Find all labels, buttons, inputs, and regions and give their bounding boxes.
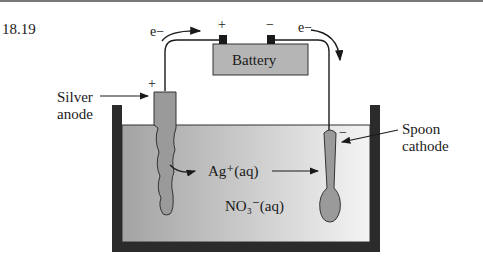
anode-sign: + (148, 76, 156, 92)
nitrate-ion-label: NO₃⁻(aq) (225, 198, 284, 214)
container-right-wall (370, 105, 380, 252)
battery-negative-sign: − (266, 17, 274, 33)
battery-label: Battery (232, 52, 276, 68)
cathode-label-line1: Spoon (402, 121, 440, 137)
figure-number: 18.19 (2, 21, 36, 37)
electron-label-left: e− (150, 24, 164, 40)
cathode-sign: − (339, 125, 347, 141)
anode-label-line2: anode (57, 106, 93, 122)
battery-negative-terminal (267, 35, 275, 44)
anode-label-line1: Silver (57, 89, 93, 105)
electron-label-right: e− (298, 20, 312, 36)
battery-positive-terminal (219, 35, 227, 44)
battery-positive-sign: + (218, 17, 226, 33)
cathode-label-line2: cathode (402, 138, 449, 154)
electron-flow-arrow-right (311, 30, 340, 60)
container-left-wall (112, 105, 122, 252)
container-bottom (112, 242, 380, 252)
silver-ion-label: Ag⁺(aq) (208, 163, 258, 179)
